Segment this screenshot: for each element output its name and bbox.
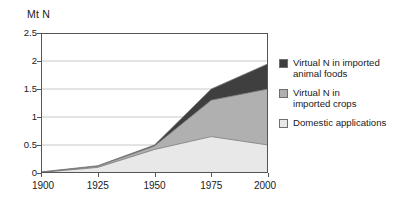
legend-item-domestic-applications: Domestic applications xyxy=(279,117,415,128)
legend-swatch-mid-icon xyxy=(279,89,288,98)
plot-area xyxy=(41,33,268,173)
y-axis-ticks: 2.5 2 1.5 1 0.5 0 xyxy=(0,33,37,173)
legend-label-imported-crops: Virtual N in imported crops xyxy=(293,87,356,110)
x-tick-mark-1900 xyxy=(41,173,42,177)
x-axis-ticks: 1900 1925 1950 1975 2000 xyxy=(41,173,268,197)
legend-item-imported-animal-foods: Virtual N in imported animal foods xyxy=(279,57,415,80)
legend-item-imported-crops: Virtual N in imported crops xyxy=(279,87,415,110)
area-series-svg xyxy=(41,33,268,173)
y-tick-label-1: 1 xyxy=(3,112,37,122)
x-tick-label-2000: 2000 xyxy=(254,180,276,191)
legend-label-line2: imported crops xyxy=(293,98,356,109)
y-tick-label-2: 2 xyxy=(3,56,37,66)
legend-swatch-dark-icon xyxy=(279,59,288,68)
area-band-domestic-applications xyxy=(41,137,268,173)
x-tick-label-1900: 1900 xyxy=(32,180,54,191)
x-tick-mark-1925 xyxy=(98,173,99,177)
legend-label-line2: animal foods xyxy=(293,68,347,79)
legend-label-domestic-applications: Domestic applications xyxy=(293,117,386,128)
chart-legend: Virtual N in imported animal foods Virtu… xyxy=(279,57,415,135)
area-bands-group xyxy=(41,64,268,173)
y-tick-label-2-5: 2.5 xyxy=(3,28,37,38)
x-tick-mark-1950 xyxy=(155,173,156,177)
x-tick-label-1950: 1950 xyxy=(143,180,165,191)
legend-label-line1: Virtual N in imported xyxy=(293,57,380,68)
y-tick-label-0: 0 xyxy=(3,168,37,178)
y-axis-unit-label: Mt N xyxy=(27,8,50,20)
y-tick-label-1-5: 1.5 xyxy=(3,84,37,94)
y-tick-label-0-5: 0.5 xyxy=(3,140,37,150)
x-tick-mark-1975 xyxy=(211,173,212,177)
legend-swatch-light-icon xyxy=(279,119,288,128)
stacked-area-chart-figure: Mt N 2.5 2 1.5 1 0.5 0 1900 1925 1950 1 xyxy=(0,0,418,197)
x-tick-label-1925: 1925 xyxy=(87,180,109,191)
x-tick-label-1975: 1975 xyxy=(200,180,222,191)
x-tick-mark-2000 xyxy=(268,173,269,177)
legend-label-imported-animal-foods: Virtual N in imported animal foods xyxy=(293,57,380,80)
legend-label-line1: Virtual N in xyxy=(293,87,340,98)
